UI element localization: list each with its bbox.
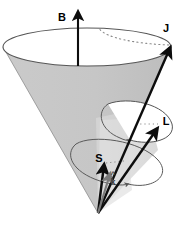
vector-precession-figure: B J L S ^ k xyxy=(0,0,184,233)
top-rim-circle xyxy=(3,28,171,66)
j-vector-label: J xyxy=(163,22,169,34)
l-vector-label: L xyxy=(163,115,170,127)
vector-precession-diagram: B J L S ^ k xyxy=(0,0,184,233)
b-vector-label: B xyxy=(58,11,66,23)
s-vector-label: S xyxy=(95,152,102,164)
top-rim-ellipse xyxy=(3,28,171,66)
